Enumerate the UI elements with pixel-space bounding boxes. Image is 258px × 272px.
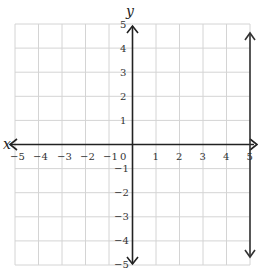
- x-tick-origin: 0: [120, 151, 126, 162]
- y-tick: 5: [120, 19, 126, 30]
- y-tick: 2: [120, 91, 126, 102]
- y-tick: 1: [120, 115, 126, 126]
- x-tick: 4: [223, 151, 229, 162]
- y-tick: −5: [114, 259, 129, 270]
- x-tick: 1: [153, 151, 159, 162]
- y-tick: 3: [120, 67, 126, 78]
- y-axis-label: y: [125, 3, 135, 19]
- y-tick: −4: [114, 235, 129, 246]
- x-tick: 5: [247, 151, 253, 162]
- x-tick: 3: [200, 151, 206, 162]
- y-tick: −3: [114, 211, 129, 222]
- x-tick-labels: −5 −4 −3 −2 −1 0 1 2 3 4 5: [10, 151, 253, 162]
- x-tick: −1: [103, 151, 118, 162]
- x-tick: −5: [10, 151, 25, 162]
- x-tick: −4: [33, 151, 48, 162]
- y-tick: −1: [114, 163, 129, 174]
- y-tick: 4: [120, 43, 126, 54]
- x-axis-label: x: [3, 136, 11, 152]
- x-tick: 2: [176, 151, 182, 162]
- x-tick: −2: [80, 151, 95, 162]
- y-tick: −2: [114, 187, 129, 198]
- coordinate-plane: x y −5 −4 −3 −2 −1 0 1 2 3 4 5 5 4 3 2 1…: [0, 0, 258, 272]
- x-axis: [10, 139, 257, 150]
- x-tick: −3: [57, 151, 72, 162]
